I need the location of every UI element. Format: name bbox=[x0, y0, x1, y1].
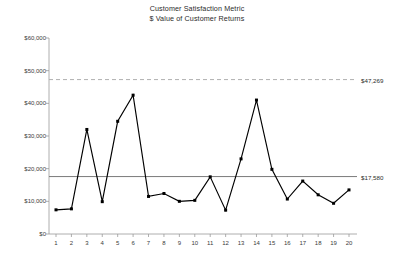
data-point-marker bbox=[332, 202, 335, 205]
y-tick-label: $50,000 bbox=[4, 68, 46, 74]
data-point-marker bbox=[85, 128, 88, 131]
data-point-marker bbox=[286, 198, 289, 201]
data-point-markers bbox=[55, 94, 351, 212]
y-tick-label: $20,000 bbox=[4, 166, 46, 172]
data-point-marker bbox=[132, 94, 135, 97]
data-point-marker bbox=[224, 209, 227, 212]
data-point-marker bbox=[301, 180, 304, 183]
data-point-marker bbox=[270, 168, 273, 171]
data-point-marker bbox=[55, 208, 58, 211]
upper-control-limit-label: $47,269 bbox=[361, 76, 383, 83]
y-tick-label: $0 bbox=[4, 231, 46, 237]
data-point-marker bbox=[255, 99, 258, 102]
data-point-marker bbox=[209, 175, 212, 178]
y-tick-label: $60,000 bbox=[4, 35, 46, 41]
data-point-marker bbox=[162, 192, 165, 195]
y-tick-marks bbox=[46, 38, 49, 234]
mean-line-label: $17,580 bbox=[361, 173, 383, 180]
x-tick-label: 20 bbox=[339, 240, 359, 246]
data-point-marker bbox=[116, 120, 119, 123]
data-point-marker bbox=[348, 188, 351, 191]
control-chart: Customer Satisfaction Metric $ Value of … bbox=[0, 0, 394, 258]
data-point-marker bbox=[101, 200, 104, 203]
y-tick-label: $10,000 bbox=[4, 198, 46, 204]
data-point-marker bbox=[178, 200, 181, 203]
data-point-marker bbox=[147, 195, 150, 198]
data-point-marker bbox=[193, 199, 196, 202]
data-point-marker bbox=[317, 193, 320, 196]
plot-area: $0$10,000$20,000$30,000$40,000$50,000$60… bbox=[0, 0, 394, 258]
data-point-marker bbox=[240, 157, 243, 160]
data-point-marker bbox=[70, 207, 73, 210]
reference-lines bbox=[49, 80, 357, 177]
y-tick-label: $40,000 bbox=[4, 100, 46, 106]
x-tick-marks bbox=[56, 234, 349, 237]
data-series-line bbox=[56, 95, 349, 210]
y-tick-label: $30,000 bbox=[4, 133, 46, 139]
chart-canvas bbox=[0, 0, 394, 258]
